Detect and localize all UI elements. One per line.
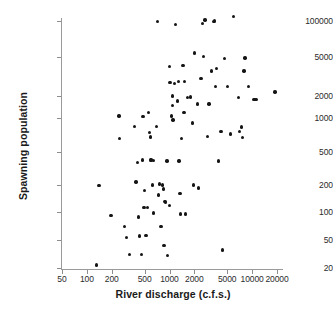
- data-point: [207, 102, 210, 105]
- data-point: [238, 130, 241, 133]
- data-point: [157, 193, 160, 196]
- data-point: [201, 22, 204, 25]
- data-point: [214, 85, 217, 88]
- data-point: [181, 64, 184, 67]
- data-point: [241, 136, 244, 139]
- data-point: [123, 225, 126, 228]
- data-point: [136, 161, 139, 164]
- data-point: [240, 125, 243, 128]
- data-point: [183, 80, 186, 83]
- data-point: [180, 137, 183, 140]
- data-point: [152, 159, 155, 162]
- data-point: [192, 183, 195, 186]
- data-point: [273, 90, 276, 93]
- data-point: [156, 20, 159, 23]
- data-point: [152, 211, 155, 214]
- data-point: [166, 254, 169, 257]
- data-point: [143, 189, 146, 192]
- data-point: [128, 253, 131, 256]
- data-point: [171, 104, 174, 107]
- data-point: [137, 215, 140, 218]
- data-point: [223, 57, 226, 60]
- data-point: [184, 212, 187, 215]
- data-point: [146, 206, 149, 209]
- data-point: [243, 56, 246, 59]
- data-point: [177, 159, 180, 162]
- data-point: [213, 19, 216, 22]
- data-point: [171, 94, 174, 97]
- data-point: [173, 82, 176, 85]
- data-point: [255, 98, 258, 101]
- data-point: [189, 95, 192, 98]
- data-point: [162, 244, 165, 247]
- data-point: [242, 69, 245, 72]
- data-point: [134, 180, 137, 183]
- data-point: [179, 212, 182, 215]
- data-point: [168, 65, 171, 68]
- data-point: [182, 111, 185, 114]
- data-point: [176, 99, 179, 102]
- data-point: [144, 234, 147, 237]
- data-point: [118, 137, 121, 140]
- data-point: [168, 81, 171, 84]
- data-point: [138, 234, 141, 237]
- data-point: [210, 69, 213, 72]
- data-point: [155, 125, 158, 128]
- data-point: [97, 184, 100, 187]
- plot-data-area: [0, 0, 333, 311]
- data-point: [219, 130, 222, 133]
- data-point: [109, 214, 112, 217]
- data-point: [196, 102, 199, 105]
- data-point: [178, 192, 181, 195]
- data-point: [221, 248, 224, 251]
- data-point: [141, 158, 144, 161]
- data-point: [206, 135, 209, 138]
- data-point: [159, 225, 162, 228]
- data-point: [117, 114, 120, 117]
- data-point: [133, 125, 136, 128]
- data-point: [232, 15, 235, 18]
- data-point: [125, 236, 128, 239]
- data-point: [141, 115, 144, 118]
- data-point: [237, 96, 240, 99]
- data-point: [148, 131, 151, 134]
- data-point: [229, 132, 232, 135]
- data-point: [147, 111, 150, 114]
- data-point: [202, 55, 205, 58]
- data-point: [168, 204, 171, 207]
- data-point: [193, 51, 196, 54]
- data-point: [247, 85, 250, 88]
- data-point: [174, 23, 177, 26]
- data-point: [199, 77, 202, 80]
- data-point: [161, 183, 164, 186]
- scatter-plot-figure: 2050100200500100020005000100000 50100200…: [0, 0, 333, 311]
- data-point: [215, 67, 218, 70]
- data-point: [151, 183, 154, 186]
- data-point: [140, 253, 143, 256]
- data-point: [197, 186, 200, 189]
- data-point: [177, 80, 180, 83]
- data-point: [162, 187, 165, 190]
- data-point: [226, 85, 229, 88]
- data-point: [149, 135, 152, 138]
- data-point: [95, 263, 98, 266]
- data-point: [203, 18, 206, 21]
- data-point: [171, 118, 174, 121]
- data-point: [191, 121, 194, 124]
- data-point: [217, 159, 220, 162]
- data-point: [164, 201, 167, 204]
- data-point: [165, 159, 168, 162]
